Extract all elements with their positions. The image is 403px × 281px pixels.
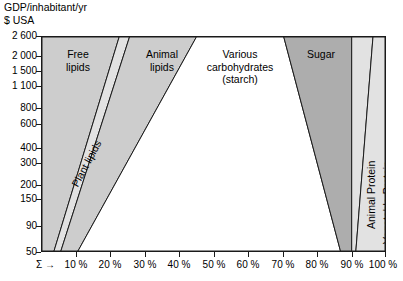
x-axis: Σ → 10 % 20 % 30 % 40 % 50 % 60 % 70 % 8… [0, 0, 403, 281]
x-tick-mark-50 [214, 252, 215, 257]
gdp-food-composition-chart: GDP/inhabitant/yr$ USA 2 600 2 000 1 500… [0, 0, 403, 281]
x-tick-mark-70 [283, 252, 284, 257]
x-tick-mark-60 [248, 252, 249, 257]
x-tick-label-30: 30 % [134, 259, 157, 270]
x-tick-mark-10 [76, 252, 77, 257]
x-tick-mark-100 [385, 252, 386, 257]
x-tick-label-90: 90 % [341, 259, 364, 270]
x-tick-mark-40 [179, 252, 180, 257]
x-tick-label-40: 40 % [168, 259, 191, 270]
x-tick-mark-90 [352, 252, 353, 257]
x-tick-mark-30 [145, 252, 146, 257]
x-tick-label-50: 50 % [203, 259, 226, 270]
sigma-arrow-marker: Σ → [36, 259, 55, 270]
x-tick-mark-80 [317, 252, 318, 257]
x-tick-label-60: 60 % [237, 259, 260, 270]
x-tick-label-100: 100 % [369, 259, 397, 270]
x-tick-label-10: 10 % [65, 259, 88, 270]
x-tick-label-80: 80 % [306, 259, 329, 270]
x-tick-mark-20 [110, 252, 111, 257]
x-tick-label-20: 20 % [99, 259, 122, 270]
x-tick-label-70: 70 % [272, 259, 295, 270]
